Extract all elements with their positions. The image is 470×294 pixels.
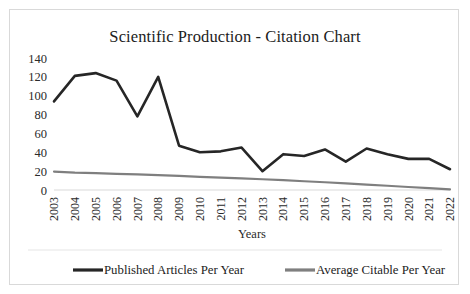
y-axis-tick-label: 100 [28,89,47,103]
x-axis-tick-label: 2003 [47,197,61,221]
x-axis-tick-label: 2007 [131,197,145,221]
y-axis-tick-label: 120 [28,70,47,84]
series-line-average-citable [54,172,450,190]
x-axis-tick-label: 2005 [89,197,103,221]
x-axis-tick-label: 2012 [235,197,249,221]
y-axis-tick-label: 0 [41,184,47,198]
legend-label-average-citable: Average Citable Per Year [316,263,446,277]
y-axis-tick-labels: 020406080100120140 [28,52,47,198]
x-axis-tick-label: 2015 [297,197,311,221]
x-axis-tick-label: 2021 [422,197,436,221]
y-axis-tick-label: 20 [35,165,48,179]
x-axis-tick-label: 2014 [276,197,290,221]
y-axis-tick-label: 80 [35,108,48,122]
x-axis-tick-label: 2022 [443,197,457,221]
x-axis-tick-label: 2018 [360,197,374,221]
x-axis-tick-label: 2019 [381,197,395,221]
x-axis-tick-label: 2010 [193,197,207,221]
chart-legend: Published Articles Per YearAverage Citab… [73,263,446,277]
y-axis-tick-label: 40 [35,146,48,160]
x-axis-tick-label: 2004 [68,197,82,221]
x-axis-tick-label: 2009 [172,197,186,221]
x-axis-tick-label: 2013 [256,197,270,221]
x-axis-tick-label: 2020 [402,197,416,221]
chart-container: Scientific Production - Citation Chart 0… [9,9,459,285]
x-axis-tick-labels: 2003200420052006200720082009201020112012… [47,197,457,221]
y-axis-tick-label: 60 [35,127,48,141]
x-axis-tick-label: 2017 [339,197,353,221]
y-axis-tick-label: 140 [28,52,47,66]
data-series-group [54,73,450,189]
series-line-published-articles [54,73,450,171]
line-chart-plot: 020406080100120140 200320042005200620072… [10,10,460,286]
x-axis-tick-label: 2016 [318,197,332,221]
x-axis-title: Years [238,227,266,241]
x-axis-tick-label: 2006 [110,197,124,221]
x-axis-tick-label: 2008 [151,197,165,221]
x-axis-tick-label: 2011 [214,197,228,221]
legend-label-published-articles: Published Articles Per Year [104,263,245,277]
